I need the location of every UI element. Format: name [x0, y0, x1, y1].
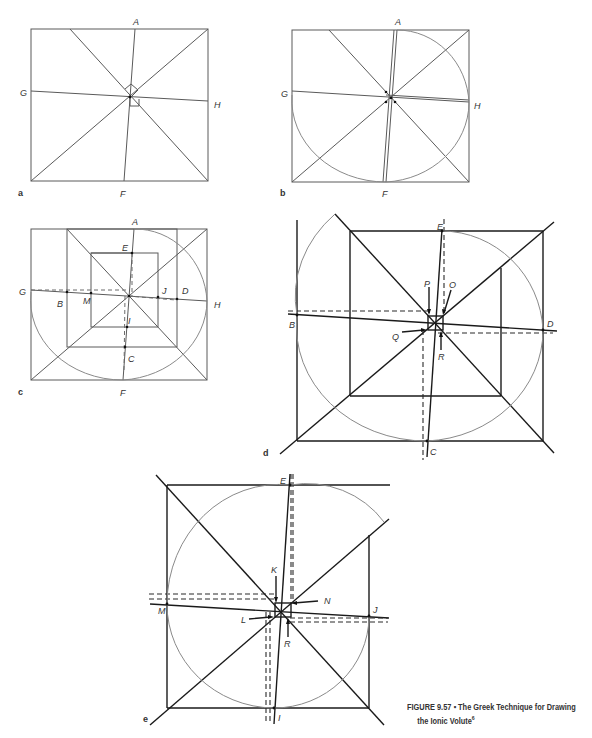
point: [385, 101, 388, 104]
panel-tag-a: a: [18, 188, 24, 198]
label-Q: Q: [392, 332, 399, 342]
point-D: [176, 298, 179, 301]
label-R: R: [284, 639, 291, 649]
panel-b: A G H F b: [280, 17, 481, 199]
point-E: [289, 484, 292, 487]
label-D: D: [182, 286, 189, 296]
panel-a: A G H F a: [18, 17, 221, 199]
axis-GH-1: [292, 91, 469, 102]
point-M: [166, 603, 169, 606]
label-K: K: [271, 565, 278, 575]
label-H: H: [214, 100, 221, 110]
panel-e: E K N M J L R I e: [143, 474, 390, 725]
diagonal-1: [280, 222, 554, 454]
label-F: F: [120, 388, 126, 398]
small-square-lower: [130, 98, 139, 106]
arrow-Q: [402, 330, 424, 332]
panel-tag-e: e: [143, 714, 148, 724]
label-D: D: [547, 319, 554, 329]
panel-tag-d: d: [263, 448, 269, 458]
footnote-marker: 6: [472, 715, 475, 721]
point-M: [90, 292, 93, 295]
label-M: M: [83, 296, 91, 306]
arrow-N: [294, 601, 318, 603]
label-B: B: [289, 320, 295, 330]
label-J: J: [372, 605, 378, 615]
label-R: R: [438, 352, 445, 362]
label-I: I: [278, 713, 281, 723]
label-E: E: [437, 222, 444, 232]
figure-title-line2: the Ionic Volute: [417, 716, 471, 726]
label-C: C: [430, 447, 437, 457]
point-I: [273, 707, 276, 710]
label-A: A: [394, 17, 401, 27]
figure-number: FIGURE 9.57: [407, 702, 451, 712]
point: [394, 101, 397, 104]
center-point: [128, 295, 131, 298]
label-L: L: [241, 615, 246, 625]
label-O: O: [449, 280, 456, 290]
panel-tag-b: b: [280, 188, 286, 198]
axis-AF-2: [383, 30, 394, 182]
point-E: [131, 252, 134, 255]
panel-d: E P O B D Q R C d: [263, 214, 557, 460]
center-point: [129, 96, 132, 99]
point-B: [296, 314, 299, 317]
point-J: [368, 615, 371, 618]
point-D: [542, 329, 545, 332]
point-C: [426, 440, 429, 443]
label-G: G: [19, 287, 26, 297]
figure-title-line1: The Greek Technique for Drawing: [458, 702, 576, 712]
ionic-volute-figure: A G H F a A G H F b: [0, 0, 592, 738]
label-F: F: [382, 189, 388, 199]
label-E: E: [122, 243, 129, 253]
label-P: P: [424, 279, 430, 289]
label-G: G: [281, 89, 288, 99]
point: [390, 97, 393, 100]
label-M: M: [158, 606, 166, 616]
volute-arc-top: [290, 484, 384, 522]
label-E: E: [280, 476, 287, 486]
arrow-L: [249, 617, 271, 619]
label-H: H: [474, 101, 481, 111]
label-C: C: [128, 354, 135, 364]
label-A: A: [131, 217, 138, 227]
point-J: [157, 296, 160, 299]
axis-BD: [288, 314, 557, 331]
point-I: [126, 326, 129, 329]
point-C: [124, 346, 127, 349]
point: [385, 91, 388, 94]
axis-AF-1: [386, 30, 397, 182]
panel-tag-c: c: [18, 387, 23, 397]
panel-c: A E G B M J D H I C F c: [18, 217, 221, 398]
point-B: [66, 291, 69, 294]
dashed-guide: [128, 296, 176, 300]
label-A: A: [132, 17, 139, 27]
label-G: G: [20, 88, 27, 98]
diagonal-1: [31, 29, 208, 181]
label-B: B: [57, 299, 63, 309]
axis-GH: [31, 91, 208, 101]
label-I: I: [128, 316, 131, 326]
label-J: J: [161, 286, 167, 296]
label-N: N: [324, 596, 331, 606]
figure-separator: ▪: [453, 702, 456, 712]
label-H: H: [214, 300, 221, 310]
arrowhead: [274, 597, 278, 603]
axis-EC: [427, 229, 442, 457]
label-F: F: [120, 189, 126, 199]
figure-caption: FIGURE 9.57 ▪ The Greek Technique for Dr…: [407, 702, 566, 727]
